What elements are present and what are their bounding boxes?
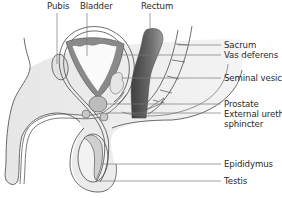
label-pubis: Pubis <box>47 1 69 11</box>
label-bladder: Bladder <box>80 1 113 11</box>
bulbourethral-gland <box>82 110 90 118</box>
label-external-urethral-sphincter-2: sphincter <box>224 119 263 129</box>
label-seminal-vesicle: Seminal vesicle <box>224 73 282 83</box>
label-prostate: Prostate <box>224 99 259 109</box>
label-epididymus: Epididymus <box>224 159 273 169</box>
label-external-urethral-sphincter-1: External urethral <box>224 109 282 119</box>
label-testis: Testis <box>224 176 247 186</box>
bulbourethral-gland-2 <box>100 113 108 121</box>
label-sacrum: Sacrum <box>224 40 256 50</box>
body-fill <box>5 39 242 192</box>
prostate-gland <box>89 96 107 112</box>
label-vas-deferens: Vas deferens <box>224 50 278 60</box>
label-rectum: Rectum <box>141 1 173 11</box>
